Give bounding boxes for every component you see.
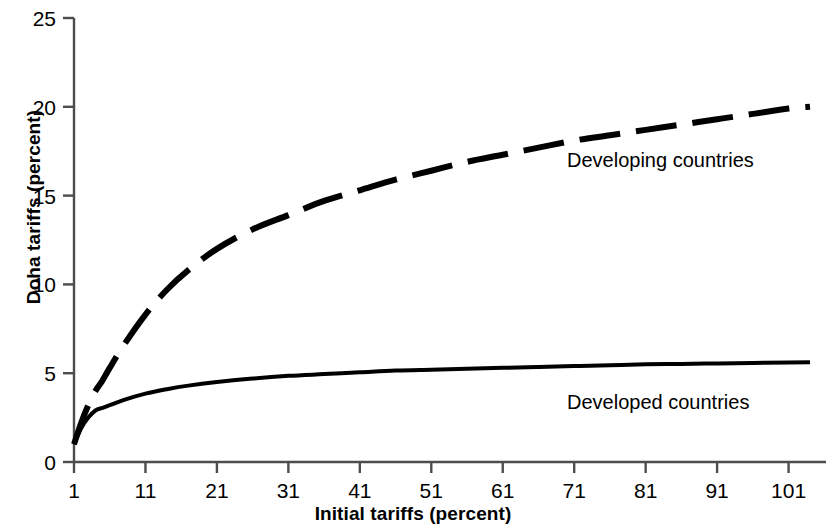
x-tick-label: 41 [348, 479, 371, 502]
series-label-developing: Developing countries [567, 149, 754, 171]
x-tick-label: 1 [68, 479, 80, 502]
x-axis-title-text: Initial tariffs (percent) [315, 503, 512, 524]
x-tick-label: 61 [491, 479, 514, 502]
x-tick-label: 71 [563, 479, 586, 502]
chart-plot-area: 1112131415161718191101 0510152025 Develo… [0, 0, 826, 530]
y-axis-ticks [63, 18, 74, 462]
x-tick-label: 21 [205, 479, 228, 502]
x-axis-tick-labels: 1112131415161718191101 [68, 479, 806, 502]
x-axis-title: Initial tariffs (percent) [0, 503, 826, 525]
x-tick-label: 81 [634, 479, 657, 502]
y-tick-label: 5 [44, 362, 56, 385]
series-label-developed: Developed countries [567, 391, 749, 413]
x-tick-label: 31 [277, 479, 300, 502]
y-tick-label: 20 [33, 96, 56, 119]
x-tick-label: 91 [705, 479, 728, 502]
y-axis-tick-labels: 0510152025 [33, 7, 56, 474]
x-tick-label: 11 [135, 479, 157, 502]
x-axis-ticks [74, 462, 789, 473]
x-tick-label: 51 [420, 479, 443, 502]
y-tick-label: 15 [33, 185, 56, 208]
x-tick-label: 101 [771, 479, 806, 502]
y-tick-label: 25 [33, 7, 56, 30]
chart-figure: 1112131415161718191101 0510152025 Develo… [0, 0, 826, 530]
series-inline-labels: Developing countriesDeveloped countries [567, 149, 754, 413]
y-tick-label: 0 [44, 451, 56, 474]
y-tick-label: 10 [33, 273, 56, 296]
